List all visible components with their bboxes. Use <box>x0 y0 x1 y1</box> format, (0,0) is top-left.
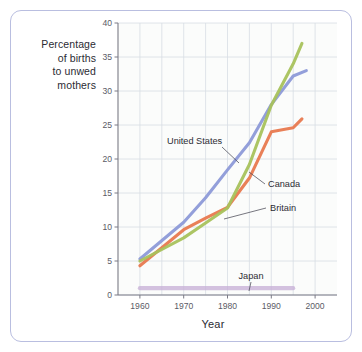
x-tick-label: 1960 <box>130 301 149 311</box>
series-label-japan: Japan <box>238 271 263 281</box>
y-tick-label: 10 <box>102 222 112 232</box>
x-tick-label: 2000 <box>306 301 325 311</box>
chart-canvas: 0510152025303540 19601970198019902000 Un… <box>0 0 362 352</box>
series-label-canada: Canada <box>268 179 301 189</box>
x-tick-label: 1970 <box>174 301 193 311</box>
series-label-britain: Britain <box>270 203 296 213</box>
y-tick-label: 25 <box>102 120 112 130</box>
y-axis-tick-labels: 0510152025303540 <box>102 18 112 300</box>
y-tick-label: 30 <box>102 86 112 96</box>
figure-root: Percentage of births to unwed mothers Ye… <box>0 0 362 352</box>
y-tick-label: 35 <box>102 52 112 62</box>
y-tick-label: 5 <box>107 256 112 266</box>
y-tick-label: 0 <box>107 290 112 300</box>
y-tick-label: 20 <box>102 154 112 164</box>
y-tick-label: 15 <box>102 188 112 198</box>
y-tick-label: 40 <box>102 18 112 28</box>
x-tick-label: 1990 <box>262 301 281 311</box>
x-tick-label: 1980 <box>218 301 237 311</box>
series-label-united-states: United States <box>167 136 223 146</box>
x-axis-tick-labels: 19601970198019902000 <box>130 301 325 311</box>
